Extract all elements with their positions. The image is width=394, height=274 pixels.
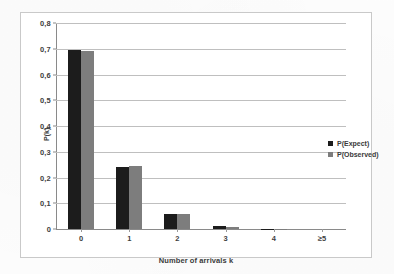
bar-pobserved-2[interactable] xyxy=(177,214,190,229)
gridline xyxy=(56,229,346,230)
bar-pexpect-1[interactable] xyxy=(116,167,129,229)
x-tick-label: 1 xyxy=(127,234,131,243)
x-tick-label: ≥5 xyxy=(318,234,326,243)
x-tick-mark xyxy=(226,229,227,232)
legend-item-label: P(Expect) xyxy=(337,140,369,147)
y-tick-mark xyxy=(53,23,56,24)
y-tick-mark xyxy=(53,74,56,75)
bar-group: 0 xyxy=(57,23,105,229)
y-tick-mark xyxy=(53,203,56,204)
y-tick-mark xyxy=(53,100,56,101)
x-tick-label: 4 xyxy=(272,234,276,243)
bar-group: 3 xyxy=(202,23,250,229)
y-tick-label: 0,2 xyxy=(40,173,51,182)
y-tick-mark xyxy=(53,48,56,49)
x-tick-mark xyxy=(177,229,178,232)
bar-group: 2 xyxy=(153,23,201,229)
x-tick-label: 3 xyxy=(224,234,228,243)
legend-item[interactable]: P(Observed) xyxy=(328,151,379,158)
bar-pexpect-2[interactable] xyxy=(164,214,177,229)
bar-group: ≥5 xyxy=(298,23,346,229)
x-tick-mark xyxy=(274,229,275,232)
bar-pobserved-1[interactable] xyxy=(129,166,142,229)
x-tick-mark xyxy=(322,229,323,232)
y-tick-label: 0,4 xyxy=(40,122,51,131)
bar-pexpect-3[interactable] xyxy=(213,226,226,229)
x-axis-title: Number of arrivals k xyxy=(21,256,371,265)
y-tick-label: 0,5 xyxy=(40,96,51,105)
plot-area: 00,10,20,30,40,50,60,70,8 01234≥5 xyxy=(56,23,346,229)
y-tick-label: 0,3 xyxy=(40,147,51,156)
x-tick-label: 2 xyxy=(175,234,179,243)
bar-groups: 01234≥5 xyxy=(57,23,346,229)
chart-legend: P(Expect)P(Observed) xyxy=(328,140,379,158)
bar-pexpect-0[interactable] xyxy=(68,50,81,229)
bar-pobserved-3[interactable] xyxy=(226,227,239,229)
legend-item[interactable]: P(Expect) xyxy=(328,140,379,147)
y-tick-label: 0 xyxy=(47,225,51,234)
legend-swatch-icon xyxy=(328,141,333,146)
y-tick-mark xyxy=(53,151,56,152)
y-tick-label: 0,1 xyxy=(40,199,51,208)
page-background: P(k) 00,10,20,30,40,50,60,70,8 01234≥5 N… xyxy=(0,0,394,274)
y-tick-mark xyxy=(53,229,56,230)
y-tick-label: 0,8 xyxy=(40,19,51,28)
legend-swatch-icon xyxy=(328,152,333,157)
y-tick-mark xyxy=(53,177,56,178)
chart-frame: P(k) 00,10,20,30,40,50,60,70,8 01234≥5 N… xyxy=(20,12,372,258)
bar-pexpect-4[interactable] xyxy=(261,229,274,230)
x-tick-mark xyxy=(81,229,82,232)
legend-item-label: P(Observed) xyxy=(337,151,379,158)
y-tick-label: 0,6 xyxy=(40,70,51,79)
bar-group: 1 xyxy=(105,23,153,229)
bar-group: 4 xyxy=(250,23,298,229)
y-tick-label: 0,7 xyxy=(40,44,51,53)
bar-pobserved-0[interactable] xyxy=(81,51,94,229)
x-tick-label: 0 xyxy=(79,234,83,243)
x-tick-mark xyxy=(129,229,130,232)
y-tick-mark xyxy=(53,126,56,127)
